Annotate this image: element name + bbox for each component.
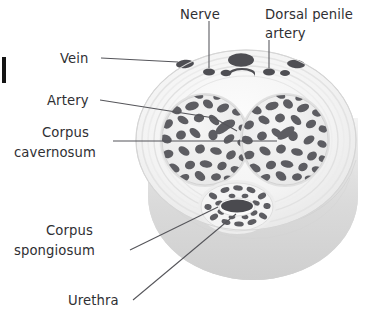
penis-cross-section-figure: Nerve Dorsal penile artery Vein Artery C…: [0, 0, 370, 319]
label-dorsal-penile-artery-line1: Dorsal penile: [265, 7, 353, 22]
label-dorsal-penile-artery-line2: artery: [265, 26, 306, 41]
urethra-lumen: [221, 200, 253, 213]
label-corpus-spongiosum-line2: spongiosum: [14, 243, 95, 258]
dorsal-penile-artery-right: [280, 70, 290, 76]
label-corpus-cavernosum-line2: cavernosum: [14, 145, 96, 160]
leader-vein: [101, 58, 178, 62]
label-corpus-spongiosum-line1: Corpus: [46, 223, 93, 238]
label-urethra: Urethra: [68, 293, 119, 308]
label-nerve: Nerve: [180, 7, 220, 22]
label-vein: Vein: [60, 51, 89, 66]
deep-dorsal-vein: [228, 53, 254, 67]
label-artery: Artery: [47, 93, 89, 108]
label-corpus-cavernosum-line1: Corpus: [42, 125, 89, 140]
corpus-spongiosum: [198, 180, 276, 234]
dorsal-nerve-left: [203, 69, 215, 76]
dorsal-penile-artery-left: [263, 69, 275, 76]
